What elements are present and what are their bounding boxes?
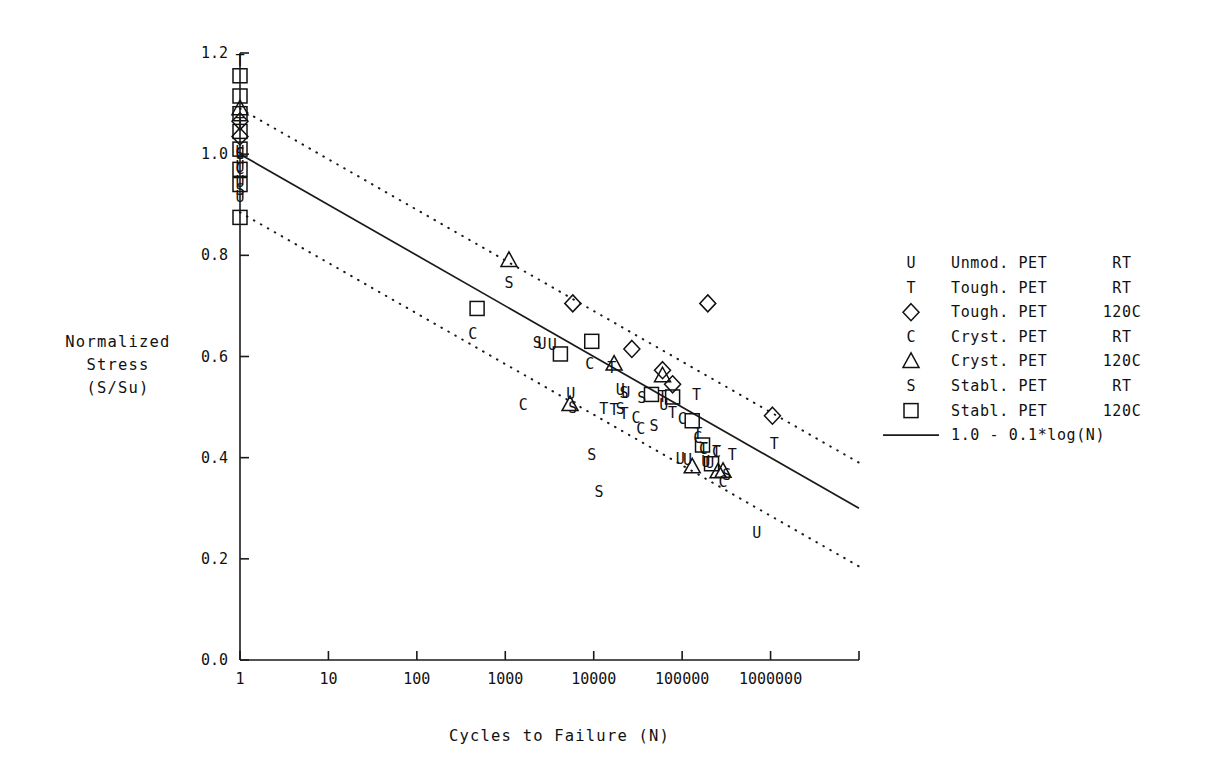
legend-marker-5: S <box>906 377 915 395</box>
series-unmod-pet-rt: UUUUUUUUUUUUUUU <box>235 143 761 542</box>
fatigue-scatter-chart: UUUUUUUUUUUUUUUTTTTTTTTTTTTTTCCCCCCCCCCC… <box>0 0 1209 772</box>
point-cryst-pet-rt-4: C <box>585 355 594 373</box>
chart-legend: UUnmod. PETRTTTough. PETRTTough. PET120C… <box>883 254 1141 444</box>
legend-marker-6 <box>904 404 918 418</box>
point-cryst-pet-rt-3: C <box>519 396 528 414</box>
point-tough-pet-rt-12: T <box>728 446 737 464</box>
series-stabl-pet-120c <box>233 69 719 471</box>
legend-row-0: UUnmod. PETRT <box>906 254 1131 272</box>
series-tough-pet-120c <box>232 113 780 424</box>
point-tough-pet-rt-7: T <box>668 404 677 422</box>
legend-row-2: Tough. PET120C <box>903 303 1141 321</box>
point-tough-pet-120c-2 <box>565 295 581 312</box>
series-cryst-pet-rt: CCCCCCCCCCCC <box>235 145 727 491</box>
point-stabl-pet-rt-6: S <box>595 483 604 501</box>
point-stabl-pet-rt-5: S <box>587 446 596 464</box>
point-stabl-pet-120c-8 <box>470 301 484 315</box>
y-axis-title-line-2: (S/Su) <box>86 379 149 397</box>
legend-material-6: Stabl. PET <box>951 402 1047 420</box>
x-tick-label-0: 1 <box>235 670 244 688</box>
legend-row-1: TTough. PETRT <box>906 279 1131 297</box>
point-stabl-pet-rt-11: S <box>722 466 731 484</box>
point-stabl-pet-rt-8: S <box>616 400 625 418</box>
y-tick-label-6: 1.2 <box>201 44 228 62</box>
legend-temperature-1: RT <box>1112 279 1131 297</box>
x-axis-title: Cycles to Failure (N) <box>449 727 670 745</box>
y-axis-title-line-1: Stress <box>86 356 149 374</box>
point-cryst-pet-rt-9: C <box>699 440 708 458</box>
point-cryst-pet-rt-2: C <box>468 325 477 343</box>
band-upper-bound <box>240 109 859 463</box>
point-tough-pet-rt-13: T <box>770 435 779 453</box>
chart-canvas: UUUUUUUUUUUUUUUTTTTTTTTTTTTTTCCCCCCCCCCC… <box>0 0 1209 772</box>
x-tick-label-2: 100 <box>403 670 430 688</box>
legend-material-1: Tough. PET <box>951 279 1047 297</box>
legend-temperature-4: 120C <box>1103 352 1142 370</box>
band-lower-bound <box>240 212 859 566</box>
legend-marker-0: U <box>906 254 915 272</box>
legend-temperature-2: 120C <box>1103 303 1142 321</box>
y-tick-label-2: 0.4 <box>201 449 228 467</box>
legend-marker-2 <box>903 304 919 321</box>
point-unmod-pet-rt-5: U <box>548 336 557 354</box>
legend-row-7: 1.0 - 0.1*log(N) <box>883 426 1105 444</box>
legend-material-4: Cryst. PET <box>951 352 1047 370</box>
point-tough-pet-120c-6 <box>700 295 716 312</box>
legend-material-0: Unmod. PET <box>951 254 1047 272</box>
y-tick-label-4: 0.8 <box>201 246 228 264</box>
y-tick-label-5: 1.0 <box>201 145 228 163</box>
point-unmod-pet-rt-14: U <box>752 524 761 542</box>
legend-row-6: Stabl. PET120C <box>904 402 1141 420</box>
legend-marker-3: C <box>906 328 915 346</box>
point-stabl-pet-rt-3: S <box>533 334 542 352</box>
x-tick-label-6: 1000000 <box>739 670 802 688</box>
x-tick-label-1: 10 <box>319 670 337 688</box>
y-tick-label-1: 0.2 <box>201 550 228 568</box>
legend-material-7: 1.0 - 0.1*log(N) <box>951 426 1105 444</box>
legend-marker-4 <box>903 353 919 368</box>
fit-line-group <box>240 154 859 508</box>
series-tough-pet-rt: TTTTTTTTTTTTTT <box>235 52 778 465</box>
point-tough-pet-120c-3 <box>624 340 640 357</box>
x-tick-label-5: 100000 <box>655 670 709 688</box>
legend-temperature-5: RT <box>1112 377 1131 395</box>
legend-row-3: CCryst. PETRT <box>906 328 1131 346</box>
y-tick-label-3: 0.6 <box>201 348 228 366</box>
point-cryst-pet-rt-10: C <box>712 443 721 461</box>
legend-marker-1: T <box>906 279 915 297</box>
legend-temperature-6: 120C <box>1103 402 1142 420</box>
x-axis: 1101001000100001000001000000 <box>235 651 859 688</box>
point-tough-pet-120c-7 <box>764 407 780 424</box>
legend-row-5: SStabl. PETRT <box>906 377 1131 395</box>
point-tough-pet-rt-3: T <box>599 400 608 418</box>
x-tick-label-3: 1000 <box>487 670 523 688</box>
series-stabl-pet-rt: SSSSSSSSSSSS <box>235 145 731 501</box>
point-stabl-pet-rt-4: S <box>568 399 577 417</box>
legend-material-5: Stabl. PET <box>951 377 1047 395</box>
point-stabl-pet-rt-10: S <box>649 417 658 435</box>
y-axis-title-line-0: Normalized <box>65 333 170 351</box>
point-tough-pet-rt-8: T <box>692 386 701 404</box>
point-stabl-pet-120c-10 <box>585 334 599 348</box>
x-tick-label-4: 10000 <box>571 670 616 688</box>
legend-temperature-3: RT <box>1112 328 1131 346</box>
data-markers: UUUUUUUUUUUUUUUTTTTTTTTTTTTTTCCCCCCCCCCC… <box>232 52 780 542</box>
y-tick-label-0: 0.0 <box>201 651 228 669</box>
fit-line <box>240 154 859 508</box>
legend-material-2: Tough. PET <box>951 303 1047 321</box>
point-cryst-pet-rt-6: C <box>636 420 645 438</box>
legend-material-3: Cryst. PET <box>951 328 1047 346</box>
legend-temperature-0: RT <box>1112 254 1131 272</box>
legend-row-4: Cryst. PET120C <box>903 352 1141 370</box>
point-stabl-pet-rt-2: S <box>504 274 513 292</box>
